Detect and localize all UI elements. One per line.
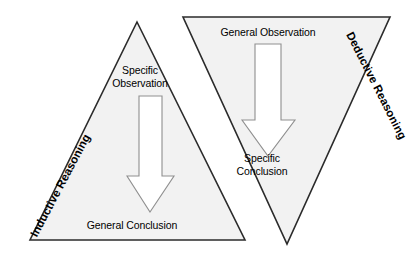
inductive-top-label: Specific Observation xyxy=(103,64,177,89)
deductive-bottom-label-line1: Specific xyxy=(223,152,301,165)
inductive-top-label-line2: Observation xyxy=(103,77,177,90)
inductive-top-label-line1: Specific xyxy=(103,64,177,77)
inductive-bottom-label: General Conclusion xyxy=(72,219,192,232)
deductive-bottom-label-line2: Conclusion xyxy=(223,165,301,178)
diagram-canvas: Specific Observation General Conclusion … xyxy=(0,0,415,260)
deductive-top-label: General Observation xyxy=(206,26,330,39)
deductive-bottom-label: Specific Conclusion xyxy=(223,152,301,177)
